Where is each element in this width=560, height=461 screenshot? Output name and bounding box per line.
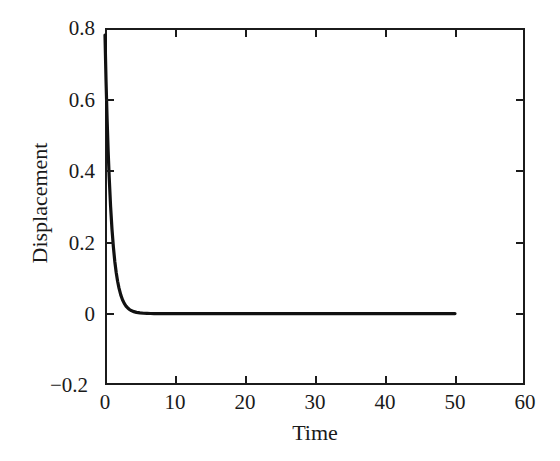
x-ticklabel-30: 30 [280, 390, 350, 414]
x-tick-40 [385, 376, 387, 385]
x-ticklabel-50: 50 [420, 390, 490, 414]
y-tick-0-2 [105, 242, 114, 244]
y-ticklabel-0-8: 0.8 [25, 16, 95, 40]
x-tick-50 [455, 376, 457, 385]
x-tick-top-30 [315, 28, 317, 37]
y-ticklabel-neg-0-2: −0.2 [18, 373, 88, 397]
x-tick-30 [315, 376, 317, 385]
x-ticklabel-60: 60 [490, 390, 560, 414]
y-tick-0-4 [105, 170, 114, 172]
y-tick-right-0-6 [516, 99, 525, 101]
x-axis-title: Time [105, 420, 525, 446]
chart-figure: 0 10 20 30 40 50 60 0.8 0.6 0.4 0.2 0 −0… [0, 0, 560, 461]
y-tick-right-0-2 [516, 242, 525, 244]
x-tick-0 [105, 376, 107, 385]
y-tick-0-6 [105, 99, 114, 101]
y-axis-title: Displacement [27, 83, 53, 323]
x-ticklabel-20: 20 [210, 390, 280, 414]
x-tick-top-20 [245, 28, 247, 37]
x-tick-top-40 [385, 28, 387, 37]
plot-frame [105, 28, 525, 385]
x-ticklabel-10: 10 [140, 390, 210, 414]
y-tick-right-0 [516, 313, 525, 315]
x-tick-top-50 [455, 28, 457, 37]
x-tick-top-10 [175, 28, 177, 37]
y-tick-right-0-4 [516, 170, 525, 172]
x-ticklabel-40: 40 [350, 390, 420, 414]
x-tick-20 [245, 376, 247, 385]
y-tick-0 [105, 313, 114, 315]
x-tick-10 [175, 376, 177, 385]
